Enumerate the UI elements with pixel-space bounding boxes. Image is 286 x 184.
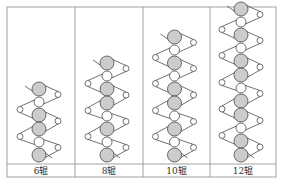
- roll-stack-10: [153, 30, 197, 162]
- idler-pulley: [191, 66, 197, 72]
- idler-pulley: [85, 134, 91, 140]
- idler-pulley: [191, 40, 197, 46]
- roll-stack-12: [219, 2, 263, 162]
- small-roll: [34, 97, 44, 107]
- idler-pulley: [17, 134, 23, 140]
- idler-pulley: [191, 119, 197, 125]
- idler-pulley: [219, 106, 225, 112]
- small-roll: [236, 43, 246, 53]
- roll-configuration-diagram: [0, 0, 286, 184]
- idler-pulley: [85, 108, 91, 114]
- small-roll: [236, 123, 246, 133]
- roll-stack-8: [85, 56, 129, 162]
- idler-pulley: [257, 64, 263, 70]
- large-roll: [234, 2, 248, 16]
- small-roll: [170, 111, 180, 121]
- idler-pulley: [55, 145, 61, 151]
- large-roll: [168, 96, 182, 110]
- idler-pulley: [123, 119, 129, 125]
- large-roll: [100, 96, 114, 110]
- idler-pulley: [257, 38, 263, 44]
- large-roll: [168, 82, 182, 96]
- large-roll: [234, 68, 248, 82]
- large-roll: [168, 148, 182, 162]
- large-roll: [234, 28, 248, 42]
- small-roll: [170, 45, 180, 55]
- small-roll: [170, 137, 180, 147]
- idler-pulley: [257, 144, 263, 150]
- idler-pulley: [257, 91, 263, 97]
- idler-pulley: [55, 92, 61, 98]
- small-roll: [34, 137, 44, 147]
- roll-stack-6: [17, 82, 61, 162]
- large-roll: [234, 54, 248, 68]
- idler-pulley: [153, 81, 159, 87]
- idler-pulley: [219, 27, 225, 33]
- idler-pulley: [17, 107, 23, 113]
- idler-pulley: [257, 12, 263, 18]
- large-roll: [100, 82, 114, 96]
- large-roll: [168, 122, 182, 136]
- large-roll: [168, 56, 182, 70]
- large-roll: [234, 134, 248, 148]
- large-roll: [234, 148, 248, 162]
- large-roll: [234, 94, 248, 108]
- idler-pulley: [191, 145, 197, 151]
- idler-pulley: [257, 118, 263, 124]
- small-roll: [236, 83, 246, 93]
- idler-pulley: [85, 81, 91, 87]
- idler-pulley: [219, 80, 225, 86]
- idler-pulley: [153, 55, 159, 61]
- idler-pulley: [191, 92, 197, 98]
- idler-pulley: [123, 92, 129, 98]
- panel-label-6-roll: 6辊: [7, 165, 75, 177]
- idler-pulley: [123, 145, 129, 151]
- small-roll: [170, 71, 180, 81]
- large-roll: [234, 108, 248, 122]
- panel-label-12-roll: 12辊: [210, 165, 276, 177]
- large-roll: [168, 30, 182, 44]
- large-roll: [32, 148, 46, 162]
- small-roll: [102, 137, 112, 147]
- idler-pulley: [123, 66, 129, 72]
- small-roll: [102, 71, 112, 81]
- roll-stacks: [17, 2, 263, 162]
- large-roll: [100, 56, 114, 70]
- idler-pulley: [219, 133, 225, 139]
- idler-pulley: [153, 134, 159, 140]
- large-roll: [100, 148, 114, 162]
- panel-label-10-roll: 10辊: [143, 165, 210, 177]
- large-roll: [32, 108, 46, 122]
- large-roll: [32, 82, 46, 96]
- idler-pulley: [219, 53, 225, 59]
- small-roll: [236, 17, 246, 27]
- large-roll: [100, 122, 114, 136]
- panel-label-8-roll: 8辊: [75, 165, 143, 177]
- idler-pulley: [55, 118, 61, 124]
- large-roll: [32, 122, 46, 136]
- small-roll: [102, 111, 112, 121]
- idler-pulley: [153, 108, 159, 114]
